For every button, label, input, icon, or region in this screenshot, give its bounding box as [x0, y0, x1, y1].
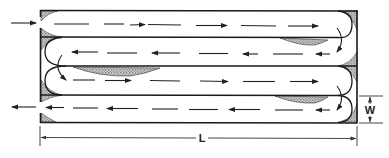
width-dimension: W: [359, 96, 383, 123]
flow-arrow: [200, 81, 228, 82]
length-line-left: [41, 138, 196, 139]
flow-channel-2: [72, 52, 330, 54]
flow-dash: [241, 26, 276, 27]
serpentine-channel-diagram: L W: [0, 0, 389, 158]
dead-zone-top-left: [41, 11, 58, 21]
uturn-arrow-left: [58, 55, 66, 80]
dead-zone-wedge-baffle-3-right: [275, 96, 328, 103]
flow-channel-3: [73, 80, 318, 82]
length-dimension: L: [40, 126, 357, 146]
flow-channel-1: [54, 24, 318, 26]
flow-channel-4: [46, 108, 330, 111]
dead-zone-left-1: [41, 28, 62, 50]
flow-dash: [148, 25, 181, 26]
baffle-2-lower-curve: [45, 66, 66, 95]
flow-arrow: [130, 25, 145, 26]
dead-zone-bottom-left: [41, 113, 56, 122]
width-label: W: [365, 104, 376, 116]
uturn-arrow-right-2: [337, 86, 342, 110]
inlet-outlet: [11, 23, 36, 107]
dead-zone-wedge-baffle-1-right: [280, 38, 328, 45]
dead-zone-wedge-baffle-2-left: [73, 67, 160, 76]
top-wall: [40, 11, 358, 12]
dead-zone-left-3: [41, 80, 62, 102]
length-line-right: [208, 138, 356, 139]
bottom-wall: [40, 123, 358, 124]
length-label: L: [199, 132, 206, 144]
baffles: [41, 11, 357, 123]
flow-dash: [150, 81, 180, 82]
uturn-arrow-right-1: [337, 28, 342, 52]
